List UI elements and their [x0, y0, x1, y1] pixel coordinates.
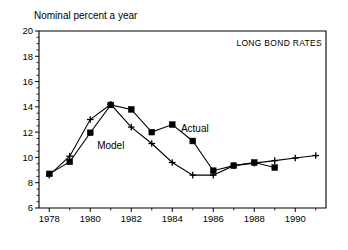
y-tick-label: 10 — [22, 152, 33, 163]
plot-border — [39, 31, 326, 208]
y-tick-label: 16 — [22, 76, 33, 87]
y-tick-label: 18 — [22, 51, 33, 62]
series-group: ActualModel — [46, 101, 319, 178]
y-tick-label: 14 — [22, 101, 33, 112]
series-line-actual — [49, 105, 275, 174]
x-tick-label: 1984 — [162, 213, 183, 224]
x-axis-ticks: 1978198019821984198619881990 — [39, 208, 316, 224]
x-tick-label: 1980 — [80, 213, 101, 224]
y-axis-ticks: 68101214161820 — [22, 25, 39, 213]
x-tick-label: 1982 — [121, 213, 142, 224]
x-tick-label: 1990 — [285, 213, 306, 224]
data-point-actual — [87, 130, 93, 136]
y-tick-label: 12 — [22, 127, 33, 138]
chart-figure: Nominal percent a year 68101214161820 19… — [0, 0, 348, 250]
series-label-actual: Actual — [181, 123, 209, 134]
y-tick-label: 20 — [22, 25, 33, 36]
x-tick-label: 1978 — [39, 213, 60, 224]
chart-annotation: LONG BOND RATES — [236, 38, 322, 48]
data-point-model — [312, 152, 319, 159]
y-axis-title: Nominal percent a year — [34, 10, 138, 21]
x-tick-label: 1986 — [203, 213, 224, 224]
y-tick-label: 6 — [28, 202, 33, 213]
plot-frame — [39, 31, 326, 208]
data-point-actual — [128, 106, 134, 112]
data-point-model — [189, 172, 196, 179]
y-tick-label: 8 — [28, 177, 33, 188]
x-tick-label: 1988 — [244, 213, 265, 224]
long-bond-rates-chart: Nominal percent a year 68101214161820 19… — [0, 0, 348, 250]
data-point-actual — [190, 138, 196, 144]
data-point-model — [271, 157, 278, 164]
data-point-actual — [272, 165, 278, 171]
data-point-actual — [67, 159, 73, 165]
data-point-model — [292, 155, 299, 162]
series-label-model: Model — [97, 140, 124, 151]
data-point-actual — [149, 129, 155, 135]
data-point-actual — [169, 122, 175, 128]
